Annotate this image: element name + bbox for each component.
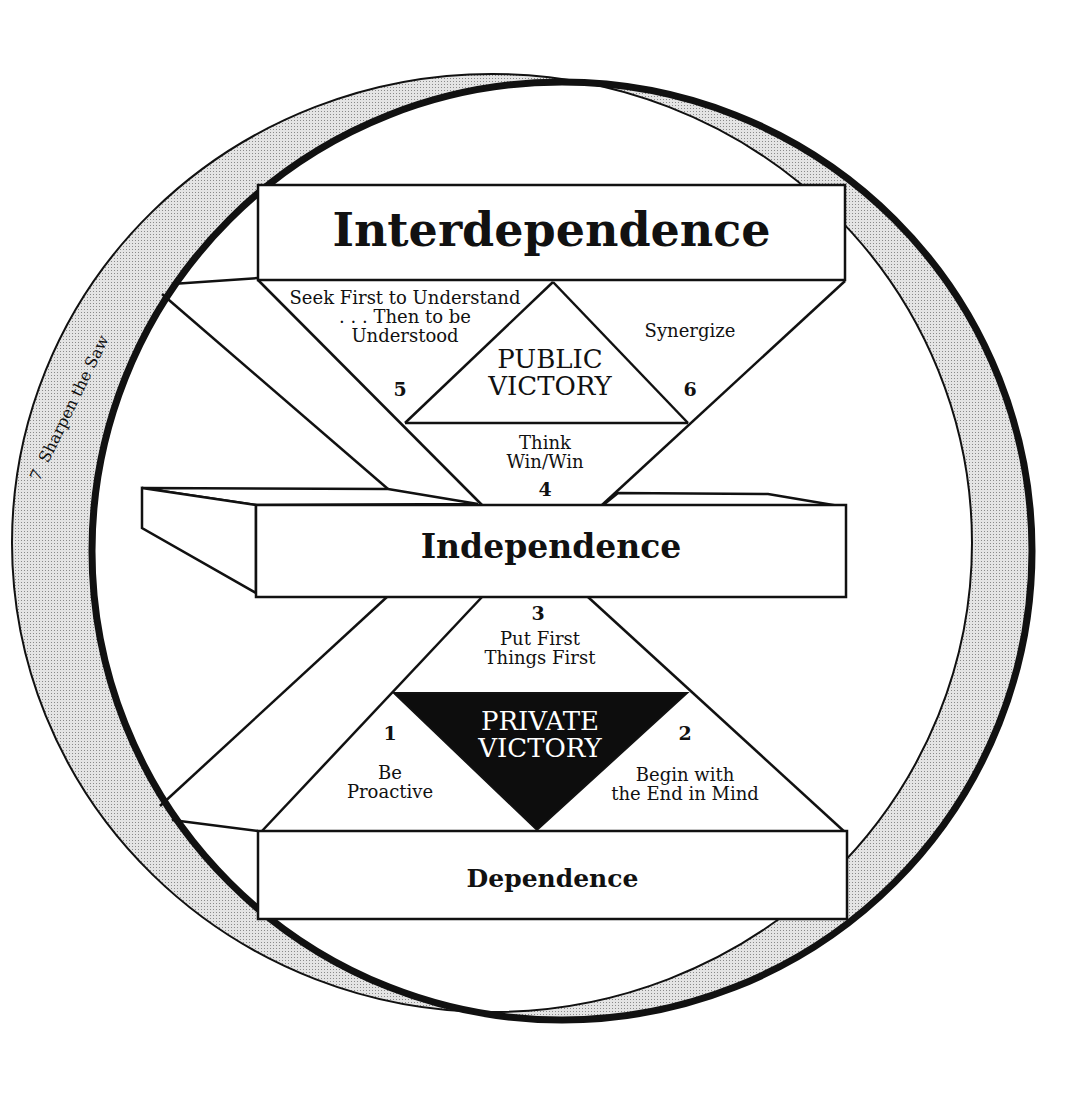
habit-4-number: 4 (533, 480, 557, 500)
habit-6-text: Synergize (630, 322, 750, 341)
public-victory-label: PUBLIC VICTORY (440, 346, 660, 401)
habit-1-text: Be Proactive (330, 764, 450, 802)
level-independence: Independence (256, 530, 846, 565)
private-victory-label: PRIVATE VICTORY (430, 708, 650, 763)
habit-6-number: 6 (678, 380, 702, 400)
level-interdependence: Interdependence (258, 206, 845, 254)
habit-4-text: Think Win/Win (480, 434, 610, 472)
habit-3-text: Put First Things First (470, 630, 610, 668)
habit-3-number: 3 (526, 604, 550, 624)
habit-1-number: 1 (378, 724, 402, 744)
habit-5-number: 5 (388, 380, 412, 400)
level-dependence: Dependence (258, 866, 847, 892)
habit-2-text: Begin with the End in Mind (600, 766, 770, 804)
habit-5-text: Seek First to Understand . . . Then to b… (270, 289, 540, 346)
habit-2-number: 2 (673, 724, 697, 744)
